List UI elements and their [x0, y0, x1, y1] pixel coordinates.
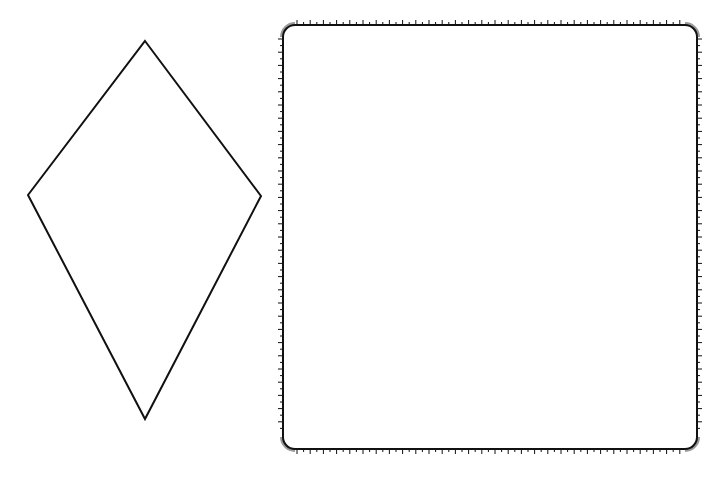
kite-shape	[28, 41, 261, 419]
square-tick-marks	[278, 20, 702, 454]
square-shape	[278, 20, 702, 454]
square-corner-arcs	[282, 24, 699, 451]
diagram-canvas	[0, 0, 724, 481]
square-border	[283, 25, 697, 449]
